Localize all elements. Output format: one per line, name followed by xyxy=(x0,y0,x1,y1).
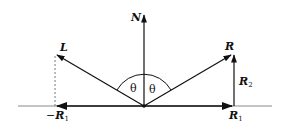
label-r2-main: R xyxy=(238,75,248,88)
origin-point xyxy=(142,104,146,108)
label-n: N xyxy=(130,11,142,24)
label-r1: R1 xyxy=(228,109,243,123)
label-theta-right: θ xyxy=(149,83,156,96)
label-r1-sub: 1 xyxy=(238,115,242,123)
label-r2-sub: 2 xyxy=(248,81,252,89)
label-r: R xyxy=(224,40,234,53)
light-vector xyxy=(57,55,144,106)
reflection-diagram: N L R θ θ −R1 R1 R2 xyxy=(0,0,284,128)
label-l: L xyxy=(59,41,68,54)
label-r2: R2 xyxy=(238,75,253,89)
label-theta-left: θ xyxy=(130,82,137,95)
reflection-vector xyxy=(144,55,231,106)
label-neg-r1-sub: 1 xyxy=(64,115,68,123)
label-neg-r1: −R1 xyxy=(46,109,69,123)
label-neg-r1-prefix: − xyxy=(46,109,55,122)
label-r1-main: R xyxy=(228,109,238,122)
label-neg-r1-main: R xyxy=(54,109,64,122)
